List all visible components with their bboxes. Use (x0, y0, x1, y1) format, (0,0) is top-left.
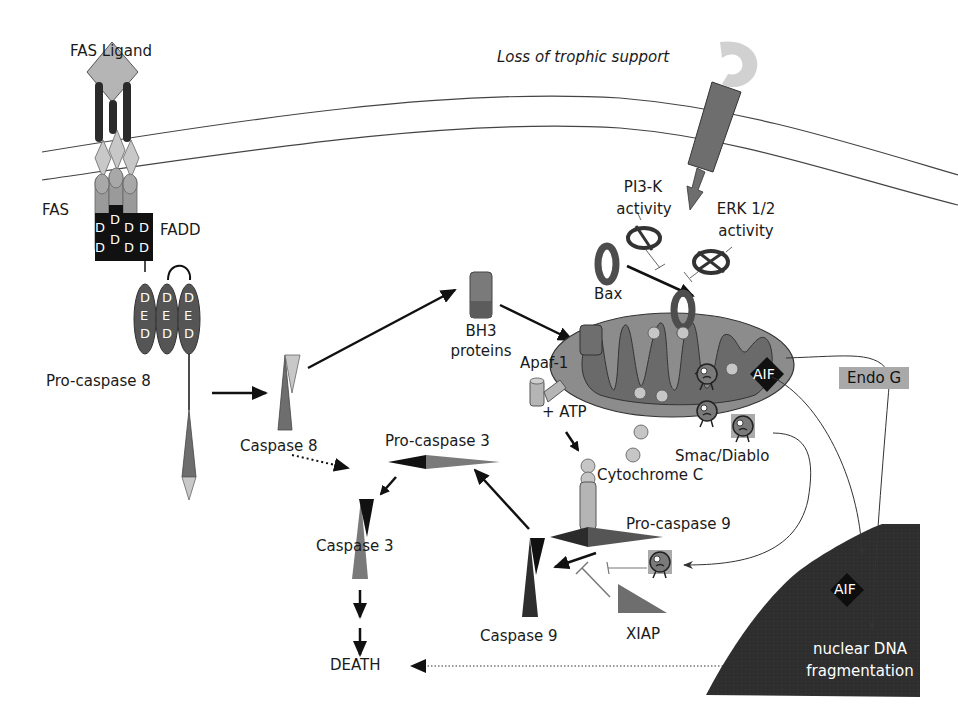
death-label: DEATH (330, 656, 381, 674)
fas-ligand-label: FAS Ligand (70, 42, 152, 60)
pro-caspase-3-shape (388, 455, 500, 469)
trophic-receptor (687, 41, 757, 210)
xiap-shape (618, 584, 667, 613)
apaf-1-icon (530, 378, 566, 406)
cell-membrane (42, 96, 958, 205)
nuclear-dna-label-line2: fragmentation (800, 662, 920, 680)
dotted-arrow-casp8-to-procasp3 (292, 455, 348, 468)
endo-g-label: Endo G (839, 367, 909, 389)
smac-diablo-label: Smac/Diablo (675, 447, 769, 465)
pi3k-inhibited-icon (628, 212, 665, 270)
ded-letter: E (184, 308, 192, 324)
xiap-inhibition (576, 562, 647, 597)
aif-nucleus-label: AIF (834, 581, 856, 598)
erk-label-line1: ERK 1/2 (706, 200, 786, 218)
fadd-dd-letter: D (124, 220, 134, 236)
fadd-dd-letter: D (124, 240, 134, 256)
fadd-dd-letter: D (110, 232, 120, 248)
ded-letter: D (162, 326, 172, 342)
nuclear-dna-label-line1: nuclear DNA (800, 640, 920, 658)
arrow-atp-to-apoptosome (566, 432, 578, 450)
bh3-label-line1: BH3 (446, 322, 516, 340)
fadd-dd-letter: D (110, 212, 120, 228)
caspase-8-shape (278, 355, 300, 430)
pro-caspase-8-label: Pro-caspase 8 (46, 372, 151, 390)
erk-inhibited-icon (684, 247, 732, 282)
released-cytochrome-c (626, 425, 648, 462)
bh3-protein (470, 272, 492, 318)
aif-mito-label: AIF (753, 366, 775, 383)
apaf-1-label: Apaf-1 (520, 354, 568, 372)
bax-icon (598, 246, 616, 282)
fas-label: FAS (42, 201, 69, 219)
fadd-label: FADD (160, 221, 201, 239)
atp-label: + ATP (542, 403, 587, 421)
pi3k-label-line2: activity (604, 200, 684, 218)
ded-letter: D (162, 290, 172, 306)
pro-caspase-3-label: Pro-caspase 3 (385, 432, 490, 450)
ded-letter: E (162, 308, 170, 324)
fadd-dd-letter: D (139, 240, 149, 256)
mitochondrion (550, 293, 794, 417)
erk-label-line2: activity (706, 222, 786, 240)
bh3-label-line2: proteins (440, 342, 522, 360)
ded-letter: D (140, 290, 150, 306)
ded-letter: D (184, 290, 194, 306)
bax-label: Bax (594, 285, 622, 303)
fadd-dd-letter: D (95, 240, 105, 256)
cytochrome-c-label: Cytochrome C (597, 466, 703, 484)
apoptosome (580, 459, 596, 530)
ded-letter: E (140, 308, 148, 324)
caspase-9-label: Caspase 9 (480, 627, 558, 645)
loss-trophic-support-label: Loss of trophic support (497, 48, 669, 66)
ded-letter: D (184, 326, 194, 342)
fadd-dd-letter: D (95, 220, 105, 236)
mito-channel (580, 325, 602, 355)
ded-letter: D (140, 326, 150, 342)
pro-caspase-9-label: Pro-caspase 9 (626, 515, 731, 533)
pi3k-label-line1: PI3-K (610, 178, 676, 196)
aif-translocation-arrow (772, 377, 862, 555)
arrow-procasp9-to-casp9 (555, 553, 596, 567)
apoptosis-diagram (0, 0, 958, 723)
arrow-casp8-to-bh3 (308, 290, 455, 368)
arrow-casp9-to-procasp3 (475, 470, 529, 529)
xiap-label: XIAP (626, 625, 660, 643)
caspase-8-label: Caspase 8 (240, 437, 318, 455)
pro-caspase-8-shape (182, 354, 196, 500)
arrow-procasp3-to-casp3 (381, 477, 396, 494)
fadd-dd-letter: D (139, 220, 149, 236)
caspase-9-shape (522, 538, 545, 617)
ded-loop (168, 266, 190, 280)
caspase-3-label: Caspase 3 (316, 537, 394, 555)
